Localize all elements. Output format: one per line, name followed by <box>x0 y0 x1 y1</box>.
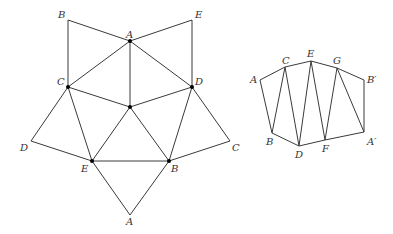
label-B-top: B <box>57 9 65 20</box>
edge-F-G <box>325 68 337 140</box>
edge-B-D <box>272 133 299 146</box>
label-E-top: E <box>194 9 203 20</box>
edge-Dleft-E <box>31 141 92 161</box>
vertex-C <box>66 85 70 89</box>
label-E: E <box>306 48 315 59</box>
label-D: D <box>194 76 203 87</box>
edge-center-E <box>92 107 130 161</box>
edge-A-C <box>68 41 130 87</box>
edge-D-Cright <box>192 87 230 141</box>
edge-E-Abottom <box>92 161 130 215</box>
edge-E-A <box>130 20 192 41</box>
label-B: B <box>265 136 273 147</box>
label-G: G <box>333 55 341 66</box>
label-D-left: D <box>19 142 28 153</box>
edge-F-Aprime <box>325 132 364 140</box>
label-F: F <box>321 143 330 154</box>
label-C: C <box>57 76 65 87</box>
vertex-E-bottom <box>90 159 94 163</box>
edge-B-C <box>272 67 285 133</box>
label-A-prime: A′ <box>366 136 377 147</box>
edge-D-B <box>169 87 192 161</box>
vertex-center <box>128 105 132 109</box>
label-C-right: C <box>232 142 240 153</box>
edge-Cright-B <box>169 141 230 161</box>
edge-C-D <box>285 67 299 146</box>
edge-B-Abottom <box>130 161 169 215</box>
edge-C-Dleft <box>31 87 68 141</box>
label-D: D <box>294 149 303 160</box>
diagram-canvas: B E A C D D C E B A A C E G B′ <box>0 0 393 234</box>
pentagonal-star-net: B E A C D D C E B A <box>19 9 240 227</box>
label-A-top: A <box>125 29 133 40</box>
edge-center-B <box>130 107 169 161</box>
edge-A-C <box>260 67 285 80</box>
edge-E-F <box>311 61 325 140</box>
label-A: A <box>249 74 257 85</box>
label-A-bottom: A <box>125 216 133 227</box>
edge-B-A <box>68 20 130 41</box>
edge-A-D <box>130 41 192 87</box>
edge-A-B <box>260 80 272 133</box>
label-B-bottom: B <box>170 163 178 174</box>
label-C: C <box>282 55 290 66</box>
label-B-prime: B′ <box>366 74 377 85</box>
edge-C-E <box>68 87 92 161</box>
zigzag-strip: A C E G B′ B D F A′ <box>249 48 377 160</box>
vertex-D <box>190 85 194 89</box>
label-E-bottom: E <box>80 163 89 174</box>
edge-G-Aprime <box>337 68 364 132</box>
edge-C-center <box>68 87 130 107</box>
edge-D-center <box>130 87 192 107</box>
edge-D-E <box>299 61 311 146</box>
